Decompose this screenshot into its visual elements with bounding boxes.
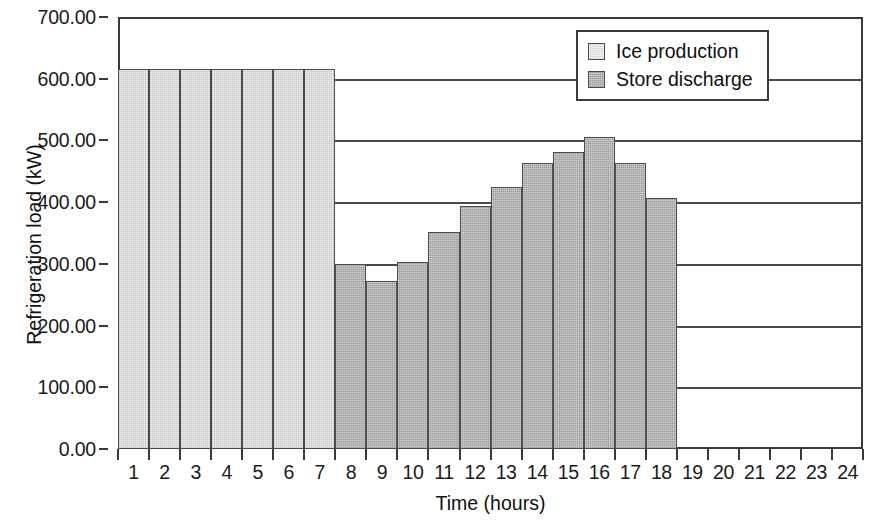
x-tick-slot [460,449,491,461]
x-tick-slot [708,449,739,461]
bar-slot [273,17,304,449]
bar-13[interactable] [491,187,522,449]
x-tick-label: 17 [615,461,646,484]
bar-11[interactable] [428,232,459,449]
bar-slot [460,17,491,449]
bar-slot [491,17,522,449]
x-tick-label: 9 [366,461,397,484]
y-tick-mark [99,325,108,327]
x-tick-label: 6 [273,461,304,484]
legend-label: Store discharge [616,68,753,91]
bar-6[interactable] [273,69,304,449]
x-tick-label: 16 [584,461,615,484]
y-tick-label: 0.00 [59,438,96,461]
x-tick-mark [303,449,305,460]
y-tick-label: 200.00 [38,314,96,337]
bar-5[interactable] [242,69,273,449]
legend-item-store[interactable]: Store discharge [588,65,753,93]
bar-slot [180,17,211,449]
legend-label: Ice production [616,40,739,63]
x-tick-slot [304,449,335,461]
x-tick-label: 12 [460,461,491,484]
x-tick-label: 7 [304,461,335,484]
x-tick-label: 23 [801,461,832,484]
x-tick-mark [552,449,554,460]
x-tick-slot [646,449,677,461]
bar-slot [118,17,149,449]
x-axis-ticks [118,449,863,461]
x-tick-mark [521,449,523,460]
legend-swatch-icon [588,71,605,88]
x-tick-slot [242,449,273,461]
y-tick-label: 300.00 [38,252,96,275]
y-axis-ticks: 700.00600.00500.00400.00300.00200.00100.… [0,0,118,466]
bar-4[interactable] [211,69,242,449]
bar-12[interactable] [460,206,491,449]
x-tick-label: 1 [118,461,149,484]
x-tick-slot [770,449,801,461]
x-tick-mark [459,449,461,460]
x-axis-labels: 123456789101112131415161718192021222324 [118,461,863,484]
x-tick-label: 8 [335,461,366,484]
bar-slot [149,17,180,449]
bar-10[interactable] [397,262,428,449]
x-tick-mark [117,449,119,460]
x-tick-label: 21 [739,461,770,484]
bar-7[interactable] [304,69,335,449]
x-tick-mark [396,449,398,460]
x-tick-mark [334,449,336,460]
legend-swatch-icon [588,43,605,60]
bar-17[interactable] [615,163,646,449]
x-tick-label: 10 [397,461,428,484]
x-tick-slot [522,449,553,461]
x-tick-mark [210,449,212,460]
bar-slot [211,17,242,449]
x-tick-mark [800,449,802,460]
legend-item-ice[interactable]: Ice production [588,37,753,65]
x-tick-slot [553,449,584,461]
x-tick-mark [862,449,864,460]
y-tick-mark [99,201,108,203]
bar-slot [428,17,459,449]
chart-legend: Ice productionStore discharge [576,30,769,101]
bar-slot [397,17,428,449]
y-tick-mark [99,263,108,265]
x-tick-slot [211,449,242,461]
x-tick-mark [427,449,429,460]
bar-16[interactable] [584,137,615,449]
bar-slot [770,17,801,449]
x-tick-mark [738,449,740,460]
x-tick-slot [273,449,304,461]
x-tick-mark [645,449,647,460]
bar-2[interactable] [149,69,180,449]
bar-15[interactable] [553,152,584,449]
x-tick-label: 22 [770,461,801,484]
x-tick-label: 4 [211,461,242,484]
bar-slot [366,17,397,449]
x-tick-label: 24 [832,461,863,484]
bar-3[interactable] [180,69,211,449]
x-tick-mark [241,449,243,460]
x-tick-slot [428,449,459,461]
y-tick-mark [99,139,108,141]
bar-14[interactable] [522,163,553,449]
bar-1[interactable] [118,69,149,449]
x-tick-mark [831,449,833,460]
bar-18[interactable] [646,198,677,449]
bar-8[interactable] [335,264,366,449]
bar-slot [832,17,863,449]
y-tick-label: 600.00 [38,67,96,90]
x-tick-label: 20 [708,461,739,484]
x-tick-slot [584,449,615,461]
x-tick-slot [832,449,863,461]
x-tick-slot [491,449,522,461]
bar-slot [304,17,335,449]
x-tick-label: 18 [646,461,677,484]
y-tick-label: 100.00 [38,376,96,399]
bar-9[interactable] [366,281,397,449]
x-tick-slot [677,449,708,461]
y-tick-mark [99,448,108,450]
x-tick-label: 14 [522,461,553,484]
y-tick-mark [99,386,108,388]
x-tick-slot [118,449,149,461]
